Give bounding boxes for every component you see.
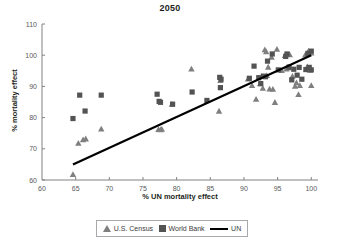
data-point-world-bank [82,108,87,113]
data-point-world-bank [158,100,163,105]
data-point-world-bank [270,51,275,56]
legend-label-un: UN [231,225,241,232]
y-tick-label: 100 [13,52,37,59]
data-point-world-bank [258,81,263,86]
data-points [70,46,315,177]
data-point-world-bank [155,92,160,97]
data-point-world-bank [299,77,304,82]
data-point-world-bank [218,85,223,90]
legend-item-us-census: U.S. Census [103,225,153,232]
legend-label-world-bank: World Bank [169,225,205,232]
data-point-world-bank [284,51,289,56]
data-point-world-bank [247,76,252,81]
x-tick-label: 65 [61,185,91,192]
x-tick-label: 85 [195,185,225,192]
data-point-world-bank [289,77,294,82]
y-tick-label: 110 [13,21,37,28]
x-tick-label: 70 [94,185,124,192]
data-point-us-census [98,126,104,132]
data-point-us-census [75,140,81,146]
triangle-marker-icon [103,225,111,232]
x-tick-label: 60 [27,185,57,192]
data-point-world-bank [309,67,314,72]
data-point-us-census [295,91,301,97]
line-marker-icon [210,228,228,230]
data-point-world-bank [170,102,175,107]
data-point-us-census [308,82,314,88]
data-point-world-bank [295,73,300,78]
data-point-us-census [70,171,76,177]
square-marker-icon [159,225,166,232]
data-point-world-bank [218,77,223,82]
chart-legend: U.S. Census World Bank UN [96,220,248,237]
data-point-us-census [253,96,259,102]
data-point-us-census [272,99,278,105]
y-tick-label: 90 [13,83,37,90]
data-point-world-bank [70,116,75,121]
y-tick-label: 80 [13,114,37,121]
x-tick-label: 100 [296,185,326,192]
data-point-world-bank [297,65,302,70]
x-tick-label: 95 [263,185,293,192]
y-tick-label: 60 [13,177,37,184]
x-tick-label: 80 [162,185,192,192]
data-point-world-bank [291,67,296,72]
data-point-us-census [274,46,280,52]
trend-line-un [73,55,311,164]
data-point-us-census [265,64,271,70]
x-tick-label: 75 [128,185,158,192]
plot-area [0,0,340,246]
un-trend-line [73,55,311,164]
data-point-world-bank [251,64,256,69]
legend-item-un: UN [210,225,241,232]
data-point-world-bank [309,49,314,54]
x-tick-label: 90 [229,185,259,192]
axis-ticks [42,24,311,180]
data-point-us-census [188,66,194,72]
y-tick-label: 70 [13,145,37,152]
chart-figure: 2050 % mortality effect % UN mortality e… [0,0,340,246]
data-point-world-bank [99,93,104,98]
legend-item-world-bank: World Bank [159,225,205,232]
data-point-world-bank [190,89,195,94]
data-point-world-bank [265,59,270,64]
legend-label-us-census: U.S. Census [114,225,153,232]
data-point-us-census [216,108,222,114]
data-point-world-bank [77,93,82,98]
